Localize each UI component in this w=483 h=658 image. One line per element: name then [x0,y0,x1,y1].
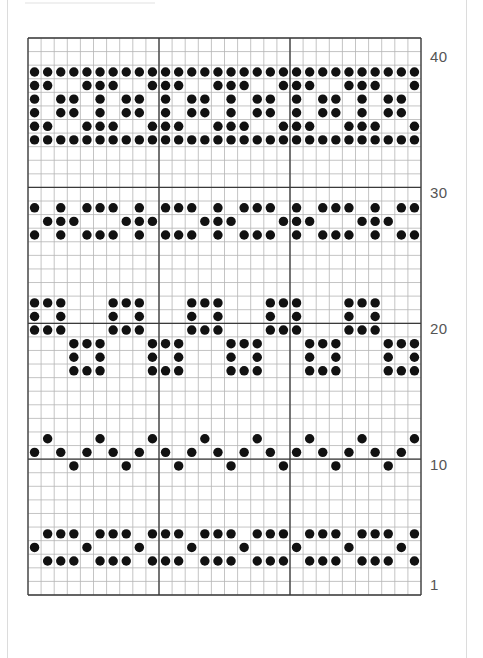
stitch-dot [318,529,327,538]
stitch-dot [161,94,170,103]
stitch-dot [69,353,78,362]
stitch-dot [108,81,117,90]
stitch-dot [213,81,222,90]
stitch-dot [397,67,406,76]
row-label: 40 [430,49,448,64]
stitch-dot [397,108,406,117]
stitch-dot [226,461,235,470]
stitch-dot [82,339,91,348]
stitch-dot [279,122,288,131]
stitch-dot [95,122,104,131]
stitch-dot [148,434,157,443]
stitch-dot [384,529,393,538]
stitch-dot [69,108,78,117]
stitch-dot [82,122,91,131]
stitch-dot [410,230,419,239]
stitch-dot [187,108,196,117]
stitch-dot [384,217,393,226]
stitch-dot [30,108,39,117]
stitch-dot [226,556,235,565]
stitch-dot [253,135,262,144]
stitch-dot [279,325,288,334]
stitch-dot [370,217,379,226]
stitch-dot [56,312,65,321]
stitch-dot [95,366,104,375]
stitch-dot [161,448,170,457]
stitch-dot [239,366,248,375]
stitch-dot [148,353,157,362]
stitch-dot [200,529,209,538]
stitch-dot [344,448,353,457]
stitch-dot [95,67,104,76]
stitch-dot [122,217,131,226]
stitch-dot [174,203,183,212]
stitch-dot [135,217,144,226]
stitch-dot [239,122,248,131]
stitch-dot [174,461,183,470]
stitch-dot [161,339,170,348]
stitch-dot [148,366,157,375]
stitch-dot [213,298,222,307]
stitch-dot [30,448,39,457]
stitch-dot [95,556,104,565]
stitch-dot [331,108,340,117]
stitch-dot [148,339,157,348]
stitch-dot [200,217,209,226]
stitch-dot [174,135,183,144]
stitch-dot [226,94,235,103]
stitch-dot [148,217,157,226]
stitch-dot [135,203,144,212]
stitch-dot [239,543,248,552]
stitch-dot [266,135,275,144]
stitch-dot [122,67,131,76]
stitch-dot [344,230,353,239]
stitch-dot [331,529,340,538]
stitch-dot [318,448,327,457]
stitch-dot [279,67,288,76]
stitch-dot [370,122,379,131]
stitch-dot [187,203,196,212]
stitch-dot [384,556,393,565]
stitch-dot [239,81,248,90]
stitch-dot [357,135,366,144]
stitch-dot [226,366,235,375]
stitch-dot [370,135,379,144]
stitch-dot [161,67,170,76]
stitch-dot [56,556,65,565]
stitch-dot [397,135,406,144]
top-rule [25,2,155,4]
stitch-dot [56,448,65,457]
stitch-dot [279,135,288,144]
stitch-dot [108,556,117,565]
stitch-dot [266,298,275,307]
stitch-dot [305,67,314,76]
stitch-dot [43,434,52,443]
stitch-dot [305,135,314,144]
stitch-dot [370,529,379,538]
stitch-dot [410,366,419,375]
stitch-dot [384,135,393,144]
stitch-dot [410,122,419,131]
stitch-dot [279,529,288,538]
stitch-dot [174,529,183,538]
stitch-dot [95,230,104,239]
stitch-dot [200,556,209,565]
stitch-dot [161,556,170,565]
stitch-dot [30,81,39,90]
stitch-dot [253,230,262,239]
stitch-dot [226,81,235,90]
stitch-dot [384,461,393,470]
stitch-dot [331,135,340,144]
stitch-dot [331,94,340,103]
stitch-dot [187,325,196,334]
stitch-dot [135,67,144,76]
stitch-dot [397,203,406,212]
stitch-dot [148,135,157,144]
stitch-dot [200,108,209,117]
stitch-dot [200,434,209,443]
stitch-dot [279,556,288,565]
stitch-dot [108,203,117,212]
stitch-dot [331,556,340,565]
stitch-dot [318,94,327,103]
stitch-dot [292,203,301,212]
